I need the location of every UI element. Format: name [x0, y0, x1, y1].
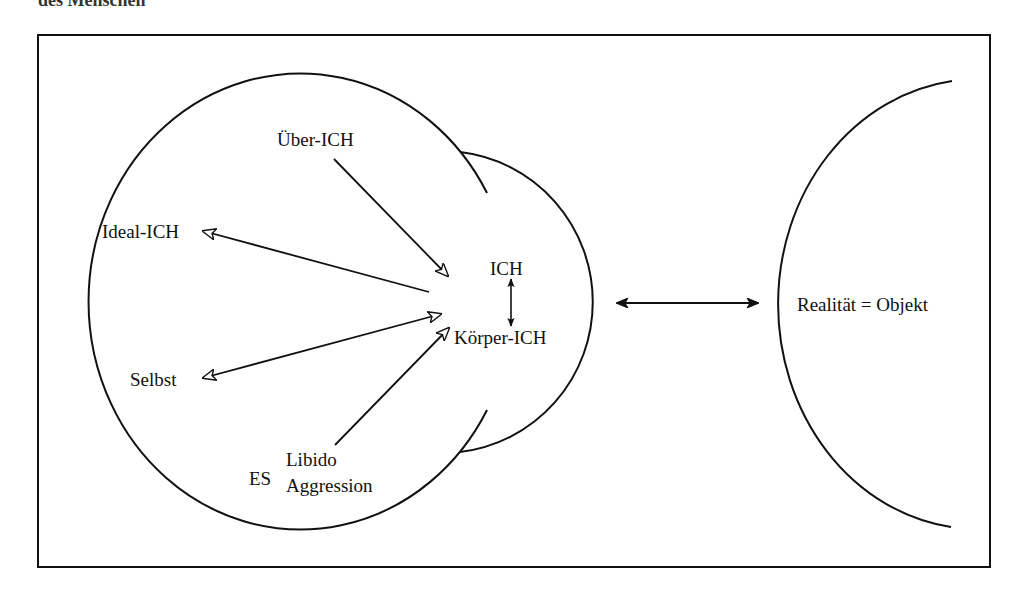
label-ideal-ich: Ideal-ICH: [102, 221, 179, 242]
arrow-libido-to-koerper-ich: [335, 328, 449, 445]
label-realitaet-objekt: Realität = Objekt: [797, 294, 929, 315]
arrow-selbst-koerper-ich: [203, 314, 441, 378]
label-libido: Libido: [286, 449, 337, 470]
arrow-ueber-ich-to-ich: [334, 159, 448, 276]
label-selbst: Selbst: [130, 369, 177, 390]
label-ueber-ich: Über-ICH: [277, 129, 354, 150]
label-koerper-ich: Körper-ICH: [454, 327, 547, 348]
ich-bulge-arc: [460, 152, 593, 452]
label-ich: ICH: [490, 258, 523, 279]
psyche-diagram: Über-ICH Ideal-ICH ICH Körper-ICH Selbst…: [0, 0, 1018, 603]
label-es: ES: [249, 468, 271, 489]
arrow-ich-to-ideal-ich: [203, 231, 429, 292]
label-aggression: Aggression: [286, 475, 373, 496]
